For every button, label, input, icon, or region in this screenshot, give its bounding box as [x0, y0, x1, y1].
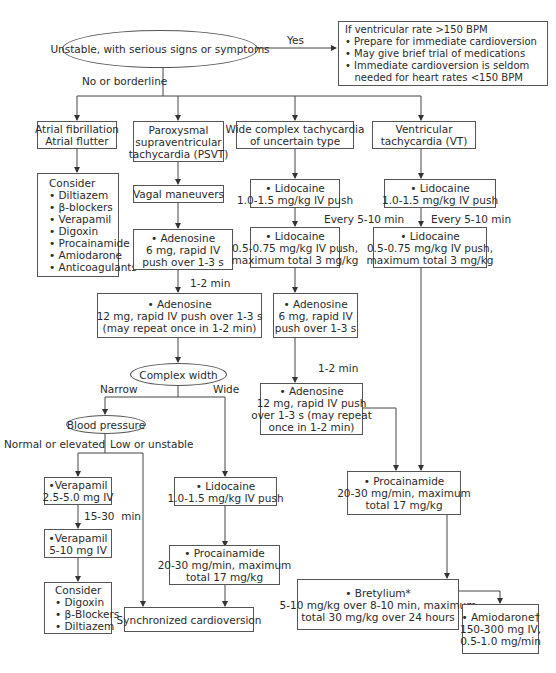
vagal-label: Vagal maneuvers — [133, 188, 224, 200]
wide-title-line: Wide complex tachycardia — [226, 123, 365, 135]
synchronized-cardioversion-box: Synchronized cardioversion — [124, 607, 254, 632]
dose-line: • Procainamide — [364, 475, 445, 487]
dose-line: •Verapamil — [49, 532, 108, 544]
verapamil-5-10-box: •Verapamil 5-10 mg IV — [44, 529, 112, 558]
dose-line: • Adenosine — [283, 298, 347, 310]
psvt-title-line: Paroxysmal — [149, 124, 209, 136]
edge-15-30-min-label: 15-30 min — [84, 510, 141, 522]
wide-lidocaine-1-box: • Lidocaine 1.0-1.5 mg/kg IV push — [250, 179, 340, 208]
consider-line: • Digoxin — [55, 596, 104, 608]
amiodarone-box: • Amiodarone† 150-300 mg IV, 0.5-1.0 mg/… — [462, 604, 539, 654]
dose-line: • Adenosine — [151, 232, 215, 244]
vagal-maneuvers-box: Vagal maneuvers — [133, 185, 224, 203]
unstable-line: • May give brief trial of medications — [345, 48, 525, 60]
consider-line: • Procainamide — [49, 237, 130, 249]
edge-no-borderline-label: No or borderline — [82, 75, 167, 87]
afib-title-line: Atrial fibrillation — [35, 123, 119, 135]
edge-1-2-min-label: 1-2 min — [318, 362, 358, 374]
vt-title-line: Ventricular — [396, 123, 453, 135]
consider-line: • Digoxin — [49, 225, 98, 237]
consider-line: • Diltiazem — [55, 620, 114, 632]
start-decision-oval: Unstable, with serious signs or symptoms — [62, 30, 258, 68]
dose-line: 20-30 mg/min, maximum — [158, 559, 292, 571]
edge-narrow-label: Narrow — [100, 383, 138, 395]
edge-every-5-10-label: Every 5-10 min — [324, 213, 404, 225]
vt-box: Ventricular tachycardia (VT) — [372, 121, 476, 149]
dose-line: 0.5-0.75 mg/kg IV push, — [232, 242, 358, 254]
wide-adenosine-12mg-box: • Adenosine 12 mg, rapid IV push over 1-… — [260, 383, 363, 435]
dose-line: 20-30 mg/min, maximum — [337, 487, 471, 499]
consider-line: • Verapamil — [49, 213, 111, 225]
psvt-procainamide-box: • Procainamide 20-30 mg/min, maximum tot… — [169, 545, 280, 585]
unstable-line: needed for heart rates <150 BPM — [345, 72, 523, 84]
consider-line: Consider — [49, 177, 95, 189]
vt-lidocaine-2-box: • Lidocaine 0.5-0.75 mg/kg IV push, maxi… — [373, 227, 487, 268]
cardioversion-label: Synchronized cardioversion — [117, 614, 262, 626]
dose-line: once in 1-2 min) — [269, 421, 355, 433]
wide-complex-box: Wide complex tachycardia of uncertain ty… — [236, 121, 354, 149]
dose-line: push over 1-3 s — [142, 256, 224, 268]
unstable-line: • Prepare for immediate cardioversion — [345, 36, 537, 48]
edge-low-unstable-label: Low or unstable — [110, 438, 193, 450]
unstable-line: • Immediate cardioversion is seldom — [345, 60, 529, 72]
vt-lidocaine-1-box: • Lidocaine 1.0-1.5 mg/kg IV push — [384, 179, 496, 208]
start-label: Unstable, with serious signs or symptoms — [50, 43, 269, 55]
psvt-adenosine-6mg-box: • Adenosine 6 mg, rapid IV push over 1-3… — [133, 229, 233, 270]
dose-line: push over 1-3 s — [275, 322, 357, 334]
dose-line: • Lidocaine — [265, 182, 325, 194]
dose-line: over 1-3 s (may repeat — [251, 409, 372, 421]
psvt-box: Paroxysmal supraventricular tachycardia … — [133, 121, 224, 162]
dose-line: • Amiodarone† — [461, 611, 539, 623]
wide-title-line: of uncertain type — [250, 135, 340, 147]
edge-1-2-min-label: 1-2 min — [190, 277, 230, 289]
dose-line: 1.0-1.5 mg/kg IV push — [382, 194, 498, 206]
consider-line: • β-blockers — [49, 201, 113, 213]
dose-line: maximum total 3 mg/kg — [232, 254, 359, 266]
dose-line: • Adenosine — [147, 298, 211, 310]
complex-width-label: Complex width — [139, 369, 217, 381]
dose-line: • Adenosine — [279, 385, 343, 397]
dose-line: 0.5-0.75 mg/kg IV push, — [367, 242, 493, 254]
dose-line: total 17 mg/kg — [365, 499, 442, 511]
wide-lidocaine-2-box: • Lidocaine 0.5-0.75 mg/kg IV push, maxi… — [250, 227, 340, 268]
psvt-lidocaine-box: • Lidocaine 1.0-1.5 mg/kg IV push — [174, 477, 277, 506]
dose-line: • Lidocaine — [400, 230, 460, 242]
edge-yes-label: Yes — [287, 34, 304, 46]
dose-line: (may repeat once in 1-2 min) — [103, 322, 257, 334]
blood-pressure-label: Blood pressure — [67, 419, 145, 431]
consider-line: Consider — [55, 584, 101, 596]
blood-pressure-oval: Blood pressure — [66, 415, 146, 434]
dose-line: 1.0-1.5 mg/kg IV push — [237, 194, 353, 206]
dose-line: 12 mg, rapid IV push over 1-3 s — [97, 310, 263, 322]
psvt-title-line: tachycardia (PSVT) — [129, 148, 229, 160]
dose-line: • Lidocaine — [265, 230, 325, 242]
dose-line: • Lidocaine — [196, 480, 256, 492]
dose-line: 0.5-1.0 mg/min — [460, 635, 541, 647]
edge-wide-label: Wide — [213, 383, 239, 395]
unstable-line: If ventricular rate >150 BPM — [345, 24, 488, 36]
consider-line: • β-Blockers — [55, 608, 119, 620]
afib-flutter-box: Atrial fibrillation Atrial flutter — [37, 121, 117, 149]
edge-every-5-10-label: Every 5-10 min — [431, 213, 511, 225]
verapamil-2-5-box: •Verapamil 2.5-5.0 mg IV — [44, 477, 112, 505]
dose-line: maximum total 3 mg/kg — [367, 254, 494, 266]
dose-line: 1.0-1.5 mg/kg IV push — [167, 492, 283, 504]
dose-line: 6 mg, rapid IV — [278, 310, 352, 322]
dose-line: 150-300 mg IV, — [460, 623, 541, 635]
psvt-adenosine-12mg-box: • Adenosine 12 mg, rapid IV push over 1-… — [97, 293, 262, 338]
bretylium-box: • Bretylium* 5-10 mg/kg over 8-10 min, m… — [297, 579, 459, 630]
psvt-title-line: supraventricular — [135, 136, 221, 148]
psvt-consider-box: Consider • Digoxin • β-Blockers • Diltia… — [44, 582, 112, 634]
dose-line: • Bretylium* — [345, 587, 411, 599]
dose-line: •Verapamil — [49, 479, 108, 491]
dose-line: • Lidocaine — [410, 182, 470, 194]
dose-line: 2.5-5.0 mg IV — [42, 491, 113, 503]
wide-adenosine-6mg-box: • Adenosine 6 mg, rapid IV push over 1-3… — [273, 293, 358, 338]
dose-line: 5-10 mg IV — [49, 544, 107, 556]
afib-title-line: Atrial flutter — [45, 135, 108, 147]
dose-line: • Procainamide — [184, 547, 265, 559]
consider-line: • Anticoagulants — [49, 261, 137, 273]
dose-line: total 30 mg/kg over 24 hours — [301, 611, 455, 623]
dose-line: 12 mg, rapid IV push — [257, 397, 367, 409]
consider-line: • Amiodarone — [49, 249, 122, 261]
